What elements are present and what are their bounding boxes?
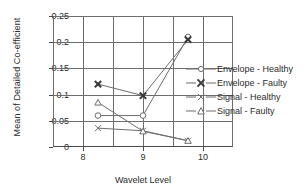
legend-item-envelope-faulty[interactable]: Envelope - Faulty — [186, 76, 293, 90]
legend-label-signal-healthy: Signal - Healthy — [216, 92, 281, 102]
series-envelope-healthy — [95, 34, 191, 118]
series-signal-faulty — [95, 99, 191, 143]
legend-marker-circle-icon — [186, 62, 216, 76]
legend-item-signal-healthy[interactable]: Signal - Healthy — [186, 90, 293, 104]
legend-marker-bold-x-icon — [186, 76, 216, 90]
legend: Envelope - Healthy Envelope - Faulty Sig… — [186, 62, 293, 118]
legend-item-envelope-healthy[interactable]: Envelope - Healthy — [186, 62, 293, 76]
chart-container: Mean of Detailed Co-efficient 0.25 0.2 0… — [0, 0, 306, 193]
legend-label-envelope-faulty: Envelope - Faulty — [216, 78, 287, 88]
legend-label-envelope-healthy: Envelope - Healthy — [216, 64, 293, 74]
legend-marker-triangle-icon — [186, 104, 216, 118]
legend-item-signal-faulty[interactable]: Signal - Faulty — [186, 104, 293, 118]
series-envelope-faulty — [95, 36, 191, 98]
legend-label-signal-faulty: Signal - Faulty — [216, 106, 275, 116]
legend-marker-thin-x-icon — [186, 90, 216, 104]
